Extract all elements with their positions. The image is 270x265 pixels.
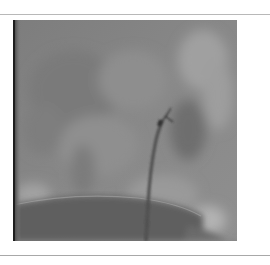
top-rule bbox=[0, 14, 270, 15]
xray-image bbox=[13, 20, 237, 241]
bottom-rule bbox=[0, 255, 270, 256]
figure-caption bbox=[130, 258, 270, 265]
fluoroscopy-figure bbox=[13, 20, 237, 241]
